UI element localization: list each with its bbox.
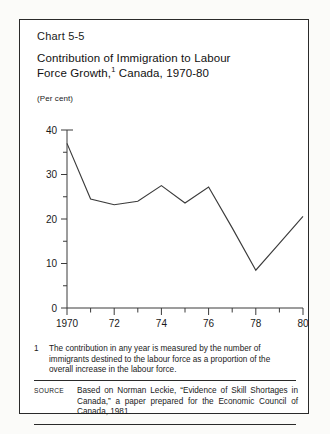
svg-text:80: 80 [297, 318, 309, 329]
svg-text:74: 74 [156, 318, 168, 329]
svg-text:76: 76 [203, 318, 215, 329]
source-label: Source [34, 386, 64, 397]
chart-title-line1: Contribution of Immigration to Labour [37, 52, 231, 64]
chart-figure-box: Chart 5-5 Contribution of Immigration to… [19, 19, 309, 414]
page-title: Contribution of Immigration to Labour Fo… [37, 51, 295, 80]
svg-text:20: 20 [46, 214, 58, 225]
source-note: Source Based on Norman Leckie, “Evidence… [34, 386, 298, 418]
source-text: Based on Norman Leckie, “Evidence of Ski… [77, 386, 298, 418]
svg-text:10: 10 [46, 258, 58, 269]
svg-text:40: 40 [46, 125, 58, 136]
footnote-text: The contribution in any year is measured… [49, 344, 296, 376]
line-chart-svg: 01020304019707274767880 [20, 106, 310, 336]
y-axis-unit-label: (Per cent) [37, 94, 73, 103]
chart-number: Chart 5-5 [37, 30, 85, 42]
chart-title-line2-post: Canada, 1970-80 [115, 67, 209, 79]
svg-text:1970: 1970 [56, 318, 79, 329]
bottom-divider [34, 424, 296, 425]
footnote-marker: 1 [34, 344, 46, 355]
svg-text:78: 78 [250, 318, 262, 329]
svg-text:0: 0 [51, 303, 57, 314]
footnote-divider [34, 380, 296, 381]
svg-text:30: 30 [46, 169, 58, 180]
chart-plot-area: 01020304019707274767880 [20, 106, 310, 336]
chart-title-line2-pre: Force Growth, [37, 67, 111, 79]
figure-page: Chart 5-5 Contribution of Immigration to… [0, 0, 330, 434]
svg-text:72: 72 [109, 318, 121, 329]
footnote-1: 1 The contribution in any year is measur… [34, 344, 296, 376]
